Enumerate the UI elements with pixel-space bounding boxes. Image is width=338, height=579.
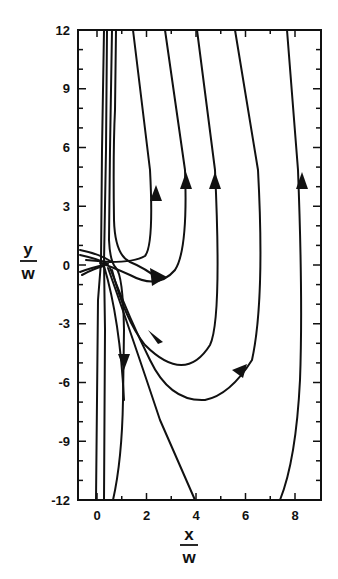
- y-tick-labels: 12 9 6 3 0 -3 -6 -9 -12: [51, 23, 70, 508]
- arrow-right-icon: [150, 268, 167, 286]
- streamline-figure: 12 9 6 3 0 -3 -6 -9 -12 0 2 4 6 8 y w x …: [0, 0, 338, 579]
- streamline: [112, 30, 218, 365]
- y-tick-label: -12: [51, 493, 70, 508]
- streamline: [109, 30, 124, 500]
- streamline: [108, 268, 195, 500]
- y-tick-label: -6: [58, 375, 70, 390]
- x-tick-label: 8: [291, 508, 298, 523]
- x-label-denominator: w: [181, 548, 196, 567]
- y-axis-ticks-left: [78, 50, 86, 481]
- x-tick-label: 0: [93, 508, 100, 523]
- y-label-denominator: w: [20, 264, 35, 283]
- x-tick-labels: 0 2 4 6 8: [93, 508, 298, 523]
- x-tick-label: 2: [143, 508, 150, 523]
- y-label-numerator: y: [23, 240, 33, 259]
- x-label-numerator: x: [184, 525, 194, 544]
- y-tick-label: 3: [63, 199, 70, 214]
- streamline: [86, 30, 151, 262]
- arrow-down-right-icon: [148, 330, 163, 344]
- y-tick-label: -9: [58, 434, 70, 449]
- y-axis-ticks-right: [313, 50, 321, 481]
- x-tick-label: 4: [192, 508, 200, 523]
- y-tick-label: 6: [63, 140, 70, 155]
- x-axis-ticks: [97, 30, 295, 500]
- y-tick-label: 12: [56, 23, 70, 38]
- x-tick-label: 6: [242, 508, 249, 523]
- y-tick-label: -3: [58, 316, 70, 331]
- streamline: [280, 30, 301, 500]
- x-axis-label: x w: [180, 525, 198, 567]
- arrow-up-icon: [209, 172, 221, 189]
- y-tick-label: 0: [63, 258, 70, 273]
- arrow-down-icon: [118, 354, 130, 370]
- streamlines: [80, 30, 301, 500]
- y-tick-label: 9: [63, 81, 70, 96]
- y-axis-label: y w: [20, 240, 37, 283]
- arrow-up-icon: [180, 172, 192, 189]
